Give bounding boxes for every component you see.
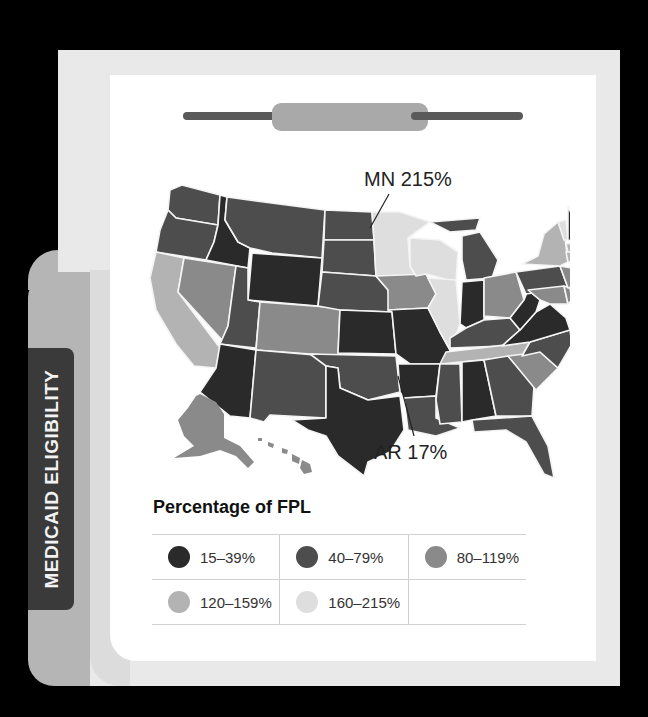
us-map bbox=[140, 160, 570, 480]
legend-swatch-icon bbox=[168, 591, 190, 613]
header-pill bbox=[272, 103, 428, 131]
legend-item: 120–159% bbox=[152, 580, 280, 625]
state-co bbox=[256, 302, 340, 356]
state-nd bbox=[324, 210, 374, 240]
legend-swatch-icon bbox=[425, 546, 447, 568]
legend-item: 40–79% bbox=[280, 535, 408, 580]
legend-swatch-icon bbox=[296, 546, 318, 568]
annotation-mn: MN 215% bbox=[364, 168, 452, 191]
legend-table: 15–39% 40–79% 80–119% 120–159% 160–215% bbox=[152, 534, 526, 625]
state-wi bbox=[410, 238, 458, 282]
legend-item: 160–215% bbox=[280, 580, 408, 625]
state-ks bbox=[338, 310, 396, 354]
state-hi bbox=[258, 438, 312, 474]
side-tab-label-box[interactable]: MEDICAID ELIGIBILITY bbox=[28, 348, 74, 610]
annotation-ar: AR 17% bbox=[374, 441, 447, 464]
state-nh bbox=[568, 206, 570, 242]
state-sd bbox=[322, 240, 376, 276]
state-nm bbox=[250, 350, 326, 422]
legend-empty-cell bbox=[408, 580, 526, 625]
state-fl bbox=[472, 416, 554, 478]
legend-swatch-icon bbox=[296, 591, 318, 613]
legend-title: Percentage of FPL bbox=[153, 497, 311, 518]
header-bar-right bbox=[411, 112, 523, 120]
state-ms bbox=[436, 364, 462, 424]
state-wy bbox=[248, 253, 322, 306]
side-tab-label: MEDICAID ELIGIBILITY bbox=[40, 370, 62, 589]
legend-item: 80–119% bbox=[408, 535, 526, 580]
state-ar bbox=[398, 364, 440, 398]
legend-item: 15–39% bbox=[152, 535, 280, 580]
legend-swatch-icon bbox=[168, 546, 190, 568]
